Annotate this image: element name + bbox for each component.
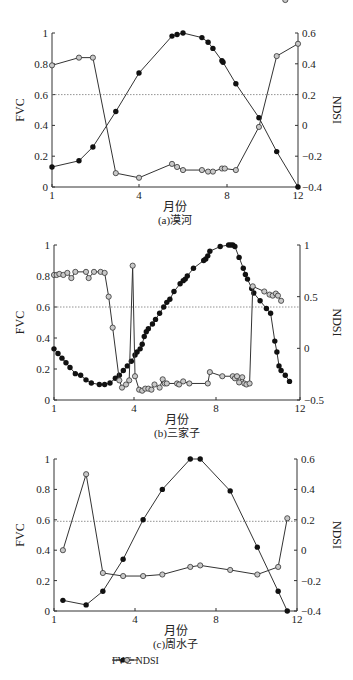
- panel-caption: (b)三家子: [154, 426, 200, 440]
- ndsi-point: [234, 374, 239, 379]
- y-tick-label: 0.6: [36, 514, 50, 526]
- y-right-tick-label: −0.4: [301, 605, 321, 617]
- y-right-axis-label: NDSI: [330, 308, 344, 336]
- ndsi-point: [275, 293, 280, 298]
- fvc-point: [264, 306, 269, 311]
- fvc-point: [120, 557, 125, 562]
- y-right-tick-label: 1: [304, 239, 310, 251]
- y-right-tick-label: 0.5: [304, 291, 318, 303]
- fvc-point: [59, 355, 64, 360]
- figure: 00.20.40.60.81−0.4−0.200.20.40.614812FVC…: [0, 0, 353, 680]
- fvc-point: [63, 360, 68, 365]
- ndsi-point: [164, 381, 169, 386]
- y-right-tick-label: 0.6: [302, 27, 316, 39]
- fvc-point: [191, 266, 196, 271]
- fvc-point: [83, 377, 88, 382]
- fvc-point: [188, 456, 193, 461]
- ndsi-point: [60, 548, 65, 553]
- ndsi-point: [110, 325, 115, 330]
- fvc-point: [180, 30, 185, 35]
- fvc-point: [199, 35, 204, 40]
- ndsi-point: [157, 385, 162, 390]
- y-tick-label: 0.8: [36, 270, 50, 282]
- x-tick-label: 8: [224, 189, 230, 201]
- panel-caption: (a)漠河: [158, 214, 192, 227]
- fvc-point: [153, 317, 158, 322]
- y-tick-label: 0.8: [34, 58, 48, 70]
- fvc-point: [136, 70, 141, 75]
- fvc-point: [140, 342, 145, 347]
- fvc-point: [251, 290, 256, 295]
- y-right-tick-label: −0.4: [302, 181, 322, 193]
- ndsi-point: [207, 370, 212, 375]
- y-right-tick-label: 0.4: [301, 483, 315, 495]
- fvc-point: [161, 304, 166, 309]
- ndsi-line: [52, 44, 298, 178]
- fvc-point: [146, 326, 151, 331]
- ndsi-point: [65, 270, 70, 275]
- legend: FVC NDSI: [112, 655, 159, 666]
- fvc-point: [205, 40, 210, 45]
- fvc-point: [150, 321, 155, 326]
- fvc-point: [295, 184, 300, 189]
- y-tick-label: 1: [43, 27, 49, 39]
- ndsi-point: [73, 269, 78, 274]
- ndsi-point: [220, 374, 225, 379]
- ndsi-point: [188, 564, 193, 569]
- fvc-point: [140, 517, 145, 522]
- ndsi-point: [247, 381, 252, 386]
- ndsi-point: [100, 570, 105, 575]
- x-tick-label: 4: [136, 189, 142, 201]
- y-axis-label: FVC: [13, 311, 27, 334]
- ndsi-point: [152, 382, 157, 387]
- y-right-axis-label: NDSI: [330, 521, 344, 549]
- ndsi-point: [274, 54, 279, 59]
- fvc-point: [205, 253, 210, 258]
- fvc-point: [268, 311, 273, 316]
- fvc-point: [83, 602, 88, 607]
- x-tick-label: 1: [51, 402, 57, 414]
- x-tick-label: 12: [293, 189, 304, 201]
- ndsi-point: [240, 375, 245, 380]
- y-right-tick-label: 0.2: [301, 514, 315, 526]
- fvc-point: [245, 276, 250, 281]
- fvc-point: [169, 33, 174, 38]
- ndsi-point: [76, 55, 81, 60]
- y-tick-label: 0.4: [36, 544, 50, 556]
- ndsi-point: [283, 0, 288, 3]
- fvc-point: [272, 338, 277, 343]
- fvc-line: [54, 245, 290, 385]
- ndsi-line: [63, 474, 287, 576]
- ndsi-point: [86, 275, 91, 280]
- ndsi-point: [237, 380, 242, 385]
- fvc-point: [274, 349, 279, 354]
- ndsi-point: [295, 41, 300, 46]
- fvc-point: [97, 382, 102, 387]
- y-right-tick-label: 0: [304, 342, 310, 354]
- ndsi-point: [205, 169, 210, 174]
- legend-ndsi-label: NDSI: [135, 655, 158, 666]
- ndsi-point: [276, 564, 281, 569]
- fvc-point: [157, 311, 162, 316]
- fvc-point: [107, 380, 112, 385]
- y-tick-label: 1: [45, 453, 51, 465]
- fvc-point: [51, 346, 56, 351]
- fvc-point: [285, 608, 290, 613]
- y-right-tick-label: 0.6: [301, 453, 315, 465]
- fvc-point: [255, 544, 260, 549]
- fvc-point: [275, 589, 280, 594]
- y-right-tick-label: −0.2: [302, 150, 322, 162]
- panel-caption: (c)周水子: [153, 638, 198, 651]
- ndsi-point: [69, 275, 74, 280]
- ndsi-point: [132, 374, 137, 379]
- ndsi-point: [262, 289, 267, 294]
- fvc-point: [283, 373, 288, 378]
- ndsi-point: [187, 381, 192, 386]
- fvc-point: [236, 255, 241, 260]
- ndsi-point: [160, 572, 165, 577]
- ndsi-point: [130, 263, 135, 268]
- ndsi-point: [256, 124, 261, 129]
- fvc-point: [198, 456, 203, 461]
- ndsi-point: [117, 378, 122, 383]
- y-right-tick-label: 0: [301, 544, 307, 556]
